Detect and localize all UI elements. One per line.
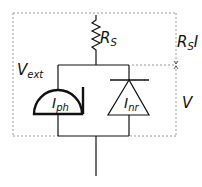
top-bus	[58, 65, 129, 90]
label-iph: Iph	[52, 96, 69, 113]
label-inr: Inr	[124, 96, 139, 113]
series-resistor	[92, 15, 100, 65]
circuit-diagram: RS RSI Vext V Iph Inr	[0, 0, 202, 187]
label-rs-i: RSI	[177, 35, 198, 52]
bottom-bus	[58, 114, 129, 176]
label-vext: Vext	[17, 63, 43, 80]
label-rs: RS	[100, 31, 117, 48]
label-v: V	[182, 96, 192, 111]
